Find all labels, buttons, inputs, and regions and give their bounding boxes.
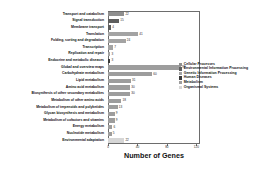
category-label: Folding, sorting and degradation — [0, 38, 106, 45]
bar-row: 7 — [108, 44, 200, 51]
category-label: Nucleotide metabolism — [0, 131, 106, 138]
category-label: Signal transduction — [0, 18, 106, 25]
legend-label: Organismal Systems — [184, 86, 219, 90]
category-label: Energy metabolism — [0, 124, 106, 131]
category-label-text: Amino acid metabolism — [66, 86, 104, 89]
category-label-text: Environmental adaptation — [62, 139, 104, 142]
category-label-text: Transcription — [82, 46, 104, 49]
legend: Cellular ProcessesEnvironmental Informat… — [179, 62, 278, 90]
bar-value-label: 41 — [139, 33, 142, 36]
bar-row: 30 — [108, 91, 200, 98]
category-label: Transcription — [0, 44, 106, 51]
category-label: Glycan biosynthesis and metabolism — [0, 111, 106, 118]
bar — [108, 32, 138, 36]
bar — [108, 99, 121, 103]
category-label: Metabolism of terpenoids and polyketides — [0, 104, 106, 111]
category-label: Endocrine and metabolic diseases — [0, 57, 106, 64]
bar-row: 13 — [108, 104, 200, 111]
bar-row: 9 — [108, 117, 200, 124]
category-label-text: Transport and catabolism — [63, 13, 104, 16]
category-label-text: Carbohydrate metabolism — [62, 72, 104, 75]
bar — [108, 105, 118, 109]
x-axis-tick-label: 120 — [194, 146, 199, 149]
category-label: Metabolism of cofactors and vitamins — [0, 117, 106, 124]
category-label: Amino acid metabolism — [0, 84, 106, 91]
bar — [108, 52, 110, 56]
category-label: Carbohydrate metabolism — [0, 71, 106, 78]
category-label-text: Nucleotide metabolism — [67, 132, 104, 135]
category-label: Lipid metabolism — [0, 77, 106, 84]
bar-value-label: 3 — [111, 59, 113, 62]
category-label-text: Metabolism of other amino acids — [51, 99, 104, 102]
bar — [108, 92, 130, 96]
bar-row: 5 — [108, 131, 200, 138]
category-label: Biosynthesis of other secondary metaboli… — [0, 91, 106, 98]
bar — [108, 59, 110, 63]
category-label-text: Energy metabolism — [73, 125, 104, 128]
category-label-text: Biosynthesis of other secondary metaboli… — [32, 92, 105, 95]
category-label-text: Metabolism of terpenoids and polyketides — [36, 106, 104, 109]
category-label: Translation — [0, 31, 106, 38]
bar-row: 22 — [108, 11, 200, 18]
bar — [108, 72, 152, 76]
category-label: Global and overview maps — [0, 64, 106, 71]
bar-row: 3 — [108, 51, 200, 58]
bar — [108, 118, 115, 122]
legend-item[interactable]: Organismal Systems — [179, 85, 278, 90]
bar — [108, 132, 112, 136]
bar-value-label: 9 — [116, 119, 118, 122]
legend-swatch-icon — [179, 63, 182, 66]
category-label: Replication and repair — [0, 51, 106, 58]
category-label-text: Metabolism of cofactors and vitamins — [43, 119, 104, 122]
category-label: Environmental adaptation — [0, 137, 106, 144]
category-label-text: Membrane transport — [71, 26, 104, 29]
bar-value-label: 24 — [127, 39, 130, 42]
bar-row: 24 — [108, 38, 200, 45]
legend-swatch-icon — [179, 81, 182, 84]
category-label-text: Translation — [86, 33, 104, 36]
bar-row: 18 — [108, 97, 200, 104]
bar-value-label: 22 — [125, 13, 128, 16]
bar — [108, 125, 112, 129]
bar-value-label: 15 — [120, 19, 123, 22]
bar — [108, 12, 124, 16]
kegg-pathway-bar-chart: Transport and catabolismSignal transduct… — [0, 0, 280, 170]
legend-swatch-icon — [179, 76, 182, 79]
bar-value-label: 30 — [131, 92, 134, 95]
bar — [108, 39, 126, 43]
category-label-text: Glycan biosynthesis and metabolism — [44, 112, 104, 115]
bar — [108, 138, 124, 142]
x-axis-tick-label: 0 — [107, 146, 109, 149]
bar-value-label: 30 — [131, 86, 134, 89]
bar-row: 9 — [108, 111, 200, 118]
x-axis-tick-label: 80 — [165, 146, 168, 149]
legend-swatch-icon — [179, 67, 182, 70]
bar — [108, 25, 111, 29]
legend-label: Metabolism — [184, 81, 203, 85]
bar-value-label: 3 — [111, 53, 113, 56]
category-label-text: Global and overview maps — [61, 66, 104, 69]
bar-value-label: 6 — [114, 126, 116, 129]
category-label: Membrane transport — [0, 24, 106, 31]
category-label-text: Lipid metabolism — [76, 79, 104, 82]
bar-value-label: 22 — [125, 139, 128, 142]
bar-value-label: 18 — [122, 99, 125, 102]
bar-value-label: 9 — [116, 112, 118, 115]
category-label-text: Signal transduction — [72, 19, 104, 22]
category-axis-labels: Transport and catabolismSignal transduct… — [0, 11, 106, 144]
x-axis-tick-label: 40 — [136, 146, 139, 149]
legend-swatch-icon — [179, 86, 182, 89]
bar-row: 41 — [108, 31, 200, 38]
bar-value-label: 5 — [113, 132, 115, 135]
x-axis: 04080120 — [108, 144, 200, 150]
category-label-text: Folding, sorting and degradation — [51, 39, 104, 42]
bar-row: 4 — [108, 24, 200, 31]
bar-value-label: 60 — [153, 73, 156, 76]
bar-value-label: 13 — [119, 106, 122, 109]
bar — [108, 85, 130, 89]
bar — [108, 79, 131, 83]
bar — [108, 112, 115, 116]
x-axis-title: Number of Genes — [108, 152, 200, 159]
category-label-text: Replication and repair — [68, 52, 104, 55]
bar-value-label: 4 — [112, 26, 114, 29]
